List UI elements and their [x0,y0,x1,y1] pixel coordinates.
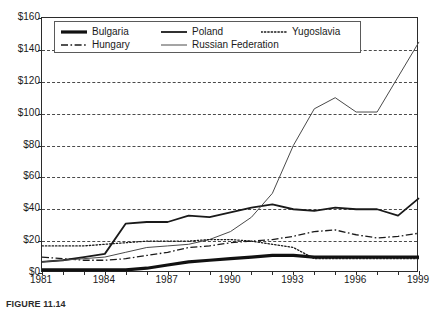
thick-solid-line-icon [61,27,87,37]
y-axis-tick-label: $120 [2,76,40,86]
series-line-russian-federation [42,42,419,262]
y-axis-labels: $0$20$40$60$80$100$120$140$160 [0,0,40,312]
chart-legend: BulgariaPolandYugoslaviaHungaryRussian F… [54,21,361,53]
medium-solid-line-icon [161,27,187,37]
series-lines [42,18,419,273]
y-axis-tick-label: $20 [2,235,40,245]
y-axis-tick-label: $60 [2,171,40,181]
x-axis-tick-label: 1999 [407,274,429,286]
thin-solid-line-icon [161,40,187,50]
x-axis-tick-label: 1996 [344,274,366,286]
dash-dot-line-icon [61,40,87,50]
x-axis-labels: 1981198419871990199319961999 [41,274,418,288]
figure-caption: FIGURE 11.14 [6,299,66,310]
y-axis-tick-label: $80 [2,140,40,150]
dotted-line-icon [261,27,287,37]
legend-entry-russian-federation: Russian Federation [161,39,279,50]
y-axis-tick-label: $40 [2,203,40,213]
legend-label: Hungary [92,39,130,50]
legend-entry-yugoslavia: Yugoslavia [261,26,340,37]
series-line-poland [42,198,419,262]
legend-entry-poland: Poland [161,26,223,37]
legend-entry-bulgaria: Bulgaria [61,26,129,37]
y-axis-tick-label: $100 [2,108,40,118]
legend-label: Poland [192,26,223,37]
x-axis-tick-label: 1993 [281,274,303,286]
figure-root: $0$20$40$60$80$100$120$140$160 198119841… [0,0,439,312]
x-axis-tick-label: 1987 [156,274,178,286]
figure-caption-label: FIGURE 11.14 [6,299,66,309]
x-axis-tick-label: 1981 [30,274,52,286]
legend-label: Yugoslavia [292,26,340,37]
x-axis-tick-label: 1990 [218,274,240,286]
legend-entry-hungary: Hungary [61,39,130,50]
legend-label: Bulgaria [92,26,129,37]
y-axis-tick-label: $140 [2,44,40,54]
x-axis-tick-label: 1984 [93,274,115,286]
legend-label: Russian Federation [192,39,279,50]
plot-area [41,17,418,272]
y-axis-tick-label: $160 [2,12,40,22]
